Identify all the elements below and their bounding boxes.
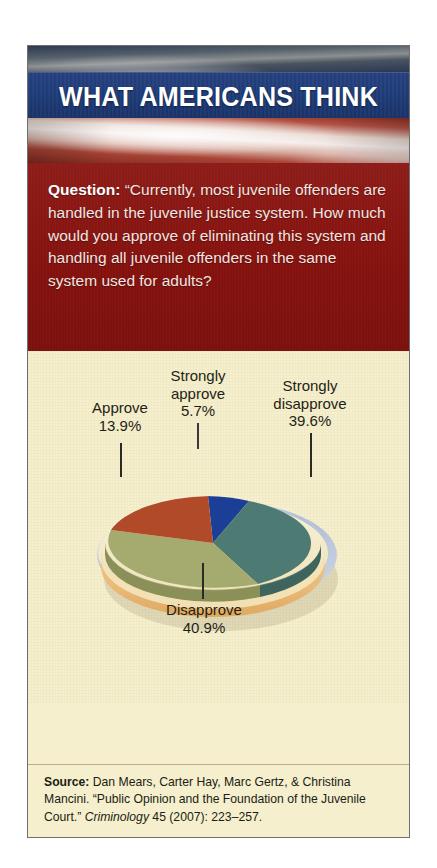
label-strongly-approve-pct: 5.7% <box>152 402 244 420</box>
question-text: Question: “Currently, most juvenile offe… <box>48 179 389 293</box>
pie-chart-panel: Approve 13.9% Strongly approve 5.7% Stro… <box>28 351 409 703</box>
leader-line-approve <box>120 443 122 477</box>
label-strongly-disapprove-l1: Strongly <box>282 377 337 394</box>
header-banner: WHAT AMERICANS THINK <box>28 46 409 163</box>
label-strongly-disapprove-l2: disapprove <box>248 395 372 413</box>
question-panel: Question: “Currently, most juvenile offe… <box>28 163 409 351</box>
source-journal: Criminology <box>85 810 149 824</box>
label-disapprove-name: Disapprove <box>166 601 242 618</box>
label-strongly-disapprove-pct: 39.6% <box>248 412 372 430</box>
page-title: WHAT AMERICANS THINK <box>41 76 395 118</box>
label-strongly-approve: Strongly approve 5.7% <box>152 367 244 420</box>
label-strongly-approve-l2: approve <box>152 385 244 403</box>
source-citation: Source: Dan Mears, Carter Hay, Marc Gert… <box>28 764 409 837</box>
infographic-frame: WHAT AMERICANS THINK Question: “Currentl… <box>27 45 410 838</box>
label-disapprove-pct: 40.9% <box>146 619 262 637</box>
leader-line-disapprove <box>202 563 204 599</box>
label-approve-name: Approve <box>92 399 148 416</box>
question-label: Question: <box>48 181 120 198</box>
flag-bottom-stripes <box>28 118 409 163</box>
leader-line-strongly-disapprove <box>310 433 312 477</box>
label-disapprove: Disapprove 40.9% <box>146 601 262 636</box>
label-strongly-disapprove: Strongly disapprove 39.6% <box>248 377 372 430</box>
source-label: Source: <box>44 775 89 789</box>
leader-line-strongly-approve <box>197 423 199 449</box>
source-volume-pages: 45 (2007): 223–257. <box>149 810 262 824</box>
label-strongly-approve-l1: Strongly <box>170 367 225 384</box>
